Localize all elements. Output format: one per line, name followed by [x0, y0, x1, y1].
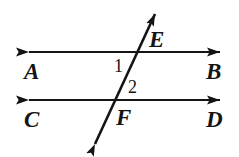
point-label-e: E — [149, 28, 164, 51]
point-label-b: B — [206, 60, 221, 83]
point-label-c: C — [24, 108, 39, 131]
geometry-diagram: A B C D E F 1 2 — [0, 0, 239, 157]
point-label-a: A — [24, 60, 39, 83]
point-label-d: D — [206, 108, 223, 131]
angle-label-1: 1 — [114, 57, 123, 75]
angle-label-2: 2 — [128, 78, 137, 96]
point-label-f: F — [116, 106, 131, 129]
